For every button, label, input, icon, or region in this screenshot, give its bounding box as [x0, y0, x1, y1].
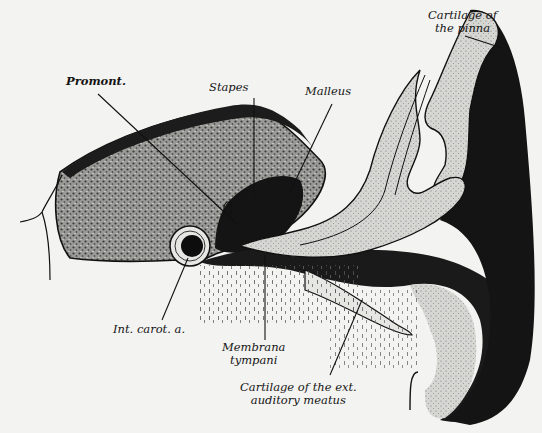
- label-cartilage-pinna: Cartilage of the pinna: [428, 9, 497, 35]
- label-malleus: Malleus: [305, 85, 351, 98]
- label-cartilage-meatus: Cartilage of the ext. auditory meatus: [240, 381, 357, 407]
- label-promont: Promont.: [66, 75, 126, 88]
- label-stapes: Stapes: [209, 81, 248, 94]
- label-membrana-tympani: Membrana tympani: [222, 341, 285, 367]
- leader-carotid: [162, 258, 188, 320]
- label-int-carot: Int. carot. a.: [113, 323, 185, 336]
- ear-section-illustration: [0, 0, 542, 433]
- anatomy-figure: Cartilage of the pinna Promont. Stapes M…: [0, 0, 542, 433]
